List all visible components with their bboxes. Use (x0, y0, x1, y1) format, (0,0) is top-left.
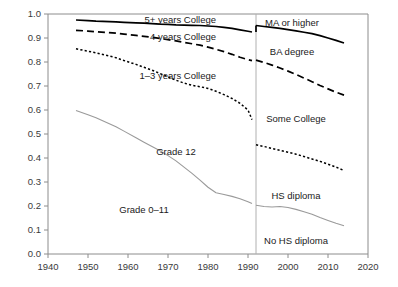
y-tick-label: 0.1 (28, 224, 41, 235)
y-tick-label: 0.3 (28, 176, 41, 187)
series-annotation-label: Grade 12 (156, 146, 196, 157)
y-tick-label: 0.8 (28, 56, 41, 67)
y-tick-label: 0.0 (28, 248, 41, 259)
x-tick-label: 1940 (37, 261, 58, 272)
series-annotation-label: 1–3 years College (139, 70, 216, 81)
series-annotation-label: Some College (266, 113, 326, 124)
series-line (256, 145, 344, 171)
x-tick-label: 1970 (157, 261, 178, 272)
series-line (256, 60, 344, 95)
x-tick-label: 2000 (277, 261, 298, 272)
y-tick-label: 0.5 (28, 128, 41, 139)
series-line (256, 26, 344, 44)
y-tick-label: 0.2 (28, 200, 41, 211)
y-tick-label: 1.0 (28, 8, 41, 19)
x-tick-label: 1950 (77, 261, 98, 272)
x-tick-label: 1980 (197, 261, 218, 272)
chart-svg: 0.00.10.20.30.40.50.60.70.80.91.01940195… (0, 0, 398, 287)
series-annotation-label: BA degree (270, 46, 314, 57)
series-annotation-label: MA or higher (265, 17, 319, 28)
y-tick-label: 0.7 (28, 80, 41, 91)
series-annotation-label: No HS diploma (264, 235, 329, 246)
series-line (76, 49, 252, 120)
x-tick-label: 2010 (317, 261, 338, 272)
education-attainment-chart: 0.00.10.20.30.40.50.60.70.80.91.01940195… (0, 0, 398, 287)
x-tick-label: 2020 (357, 261, 378, 272)
x-tick-label: 1990 (237, 261, 258, 272)
series-annotation-label: 4 years College (150, 31, 216, 42)
series-annotation-label: HS diploma (271, 190, 321, 201)
x-tick-label: 1960 (117, 261, 138, 272)
y-tick-label: 0.9 (28, 32, 41, 43)
series-line (256, 205, 344, 225)
y-tick-label: 0.6 (28, 104, 41, 115)
series-annotation-label: Grade 0–11 (119, 204, 168, 215)
y-tick-label: 0.4 (28, 152, 41, 163)
series-annotation-label: 5+ years College (144, 14, 216, 25)
